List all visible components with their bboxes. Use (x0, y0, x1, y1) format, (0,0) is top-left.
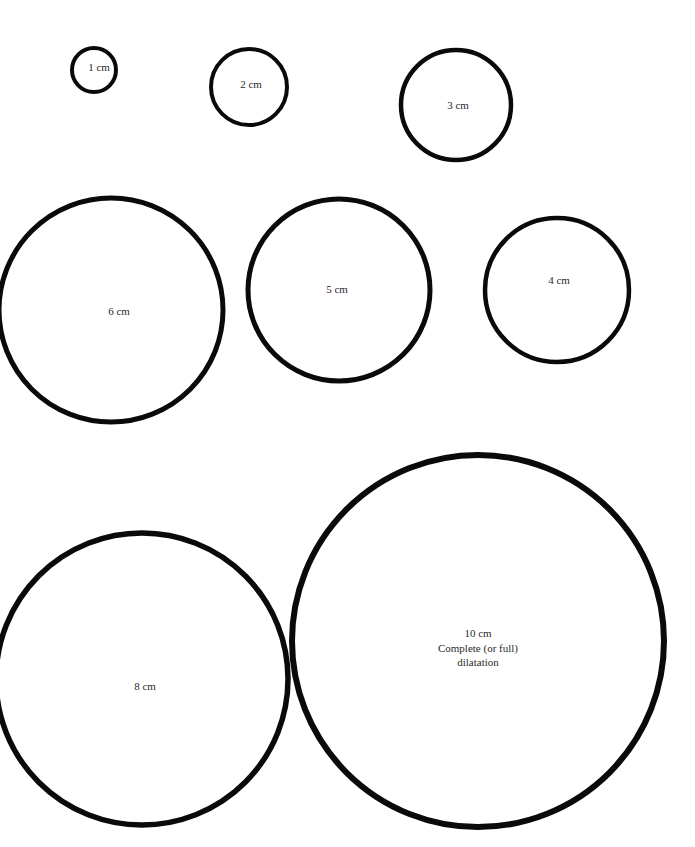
circle-label-8cm: 8 cm (134, 680, 156, 692)
circle-group-1cm: 1 cm (72, 48, 116, 92)
circle-group-3cm: 3 cm (401, 50, 511, 160)
circle-label-4cm: 4 cm (548, 274, 570, 286)
circle-group-5cm: 5 cm (248, 199, 430, 381)
circle-label-3cm: 3 cm (447, 99, 469, 111)
circle-group-10cm: 10 cm Complete (or full) dilatation (292, 455, 664, 827)
circle-note-10cm-line1: Complete (or full) (438, 642, 518, 655)
circle-ring-4cm (485, 218, 629, 362)
circle-group-2cm: 2 cm (211, 49, 287, 125)
circle-note-10cm-line2: dilatation (457, 656, 499, 668)
circle-label-1cm: 1 cm (88, 61, 110, 73)
circle-label-5cm: 5 cm (326, 283, 348, 295)
circle-label-6cm: 6 cm (108, 305, 130, 317)
circle-label-2cm: 2 cm (240, 78, 262, 90)
circle-group-8cm: 8 cm (0, 533, 288, 825)
dilatation-chart-page: 1 cm 2 cm 3 cm 4 cm 5 cm 6 cm 8 cm (0, 0, 695, 847)
circle-group-4cm: 4 cm (485, 218, 629, 362)
circle-group-6cm: 6 cm (0, 198, 223, 422)
dilatation-diagram: 1 cm 2 cm 3 cm 4 cm 5 cm 6 cm 8 cm (0, 0, 695, 847)
circle-label-10cm: 10 cm (464, 627, 492, 639)
